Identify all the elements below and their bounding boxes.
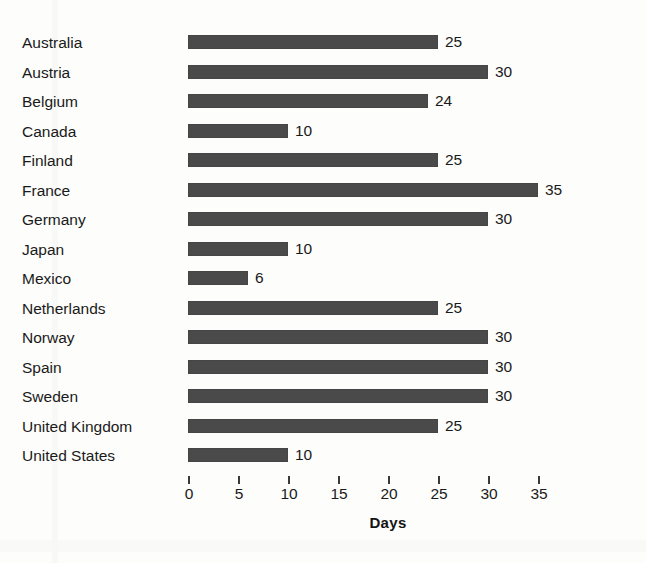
bar-value-label: 30 bbox=[495, 210, 512, 227]
category-label: Austria bbox=[22, 64, 70, 81]
bar-value-label: 35 bbox=[545, 181, 562, 198]
bar-value-label: 10 bbox=[295, 122, 312, 139]
bar-value-label: 25 bbox=[445, 299, 462, 316]
bar-row: Mexico6 bbox=[0, 269, 646, 299]
bar bbox=[188, 271, 248, 285]
bar bbox=[188, 448, 288, 462]
bar bbox=[188, 389, 488, 403]
x-axis-tick bbox=[488, 476, 490, 484]
bar-value-label: 6 bbox=[255, 269, 264, 286]
category-label: France bbox=[22, 182, 70, 199]
bar-value-label: 10 bbox=[295, 446, 312, 463]
bar-row: Japan10 bbox=[0, 240, 646, 270]
category-label: Germany bbox=[22, 211, 86, 228]
bar-rows: Australia25Austria30Belgium24Canada10Fin… bbox=[0, 33, 646, 476]
bar-row: France35 bbox=[0, 181, 646, 211]
bar bbox=[188, 124, 288, 138]
category-label: Netherlands bbox=[22, 300, 106, 317]
bar bbox=[188, 330, 488, 344]
bar-row: Finland25 bbox=[0, 151, 646, 181]
x-axis-tick-label: 15 bbox=[330, 485, 347, 503]
bar bbox=[188, 153, 438, 167]
x-axis-tick-label: 35 bbox=[530, 485, 547, 503]
bar bbox=[188, 35, 438, 49]
bar bbox=[188, 242, 288, 256]
bar-row: Australia25 bbox=[0, 33, 646, 63]
category-label: Norway bbox=[22, 329, 75, 346]
bar-row: Germany30 bbox=[0, 210, 646, 240]
category-label: Belgium bbox=[22, 93, 78, 110]
bar bbox=[188, 212, 488, 226]
x-axis-tick-label: 30 bbox=[480, 485, 497, 503]
category-label: Spain bbox=[22, 359, 62, 376]
bar-value-label: 30 bbox=[495, 387, 512, 404]
x-axis: 05101520253035 bbox=[0, 476, 646, 516]
bar-chart: Australia25Austria30Belgium24Canada10Fin… bbox=[0, 0, 646, 563]
x-axis-tick bbox=[288, 476, 290, 484]
x-axis-tick bbox=[238, 476, 240, 484]
x-axis-tick bbox=[438, 476, 440, 484]
bar-row: Canada10 bbox=[0, 122, 646, 152]
bar bbox=[188, 419, 438, 433]
x-axis-title: Days bbox=[369, 514, 406, 531]
x-axis-tick bbox=[388, 476, 390, 484]
category-label: Mexico bbox=[22, 270, 71, 287]
x-axis-tick-label: 20 bbox=[380, 485, 397, 503]
bar-value-label: 30 bbox=[495, 328, 512, 345]
category-label: United States bbox=[22, 447, 115, 464]
bar-value-label: 30 bbox=[495, 358, 512, 375]
x-axis-tick bbox=[188, 476, 190, 484]
x-axis-tick bbox=[338, 476, 340, 484]
x-axis-tick-label: 5 bbox=[235, 485, 244, 503]
bar-row: Belgium24 bbox=[0, 92, 646, 122]
x-axis-tick-label: 25 bbox=[430, 485, 447, 503]
bar bbox=[188, 360, 488, 374]
bar-row: Spain30 bbox=[0, 358, 646, 388]
bar-value-label: 24 bbox=[435, 92, 452, 109]
bar-row: Sweden30 bbox=[0, 387, 646, 417]
category-label: Canada bbox=[22, 123, 76, 140]
category-label: United Kingdom bbox=[22, 418, 132, 435]
bar bbox=[188, 183, 538, 197]
bar-row: United States10 bbox=[0, 446, 646, 476]
bar-value-label: 25 bbox=[445, 417, 462, 434]
bar-row: Netherlands25 bbox=[0, 299, 646, 329]
bar-value-label: 10 bbox=[295, 240, 312, 257]
bar-value-label: 30 bbox=[495, 63, 512, 80]
bar-value-label: 25 bbox=[445, 151, 462, 168]
bar-value-label: 25 bbox=[445, 33, 462, 50]
category-label: Finland bbox=[22, 152, 73, 169]
bar bbox=[188, 65, 488, 79]
category-label: Japan bbox=[22, 241, 64, 258]
x-axis-tick bbox=[538, 476, 540, 484]
category-label: Sweden bbox=[22, 388, 78, 405]
bar-row: Norway30 bbox=[0, 328, 646, 358]
x-axis-tick-label: 0 bbox=[185, 485, 194, 503]
bar-row: Austria30 bbox=[0, 63, 646, 93]
bar-row: United Kingdom25 bbox=[0, 417, 646, 447]
x-axis-tick-label: 10 bbox=[280, 485, 297, 503]
chart-title-clipped bbox=[0, 0, 646, 4]
bar bbox=[188, 94, 428, 108]
bar bbox=[188, 301, 438, 315]
category-label: Australia bbox=[22, 34, 82, 51]
x-axis-title-wrap: Days bbox=[188, 514, 588, 532]
